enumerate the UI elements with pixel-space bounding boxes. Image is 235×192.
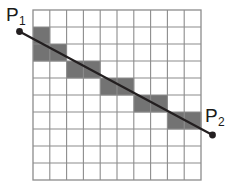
endpoint-label-p1: P [6,4,19,25]
endpoint-label-p2: P [205,105,218,126]
endpoint-dot-p1 [16,28,23,35]
endpoint-dot-p2 [209,132,216,139]
line-rasterization-figure: P1P2 [0,0,235,192]
figure-canvas: P1P2 [0,0,235,192]
shaded-pixel-c0-r1 [33,27,50,44]
endpoint-label-subscript-p1: 1 [19,14,26,28]
endpoint-label-subscript-p2: 2 [218,115,225,129]
